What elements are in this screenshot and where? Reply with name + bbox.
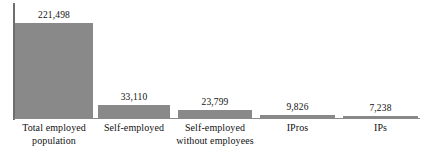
bar-ips[interactable] — [343, 116, 418, 119]
category-label-self-employed: Self-employed — [96, 121, 172, 134]
category-label-line: population — [12, 134, 96, 147]
category-label-line: without employees — [172, 134, 258, 147]
bar-chart: 221,49833,11023,7999,8267,238 Total empl… — [0, 0, 430, 158]
value-label-self-employed-without-employees: 23,799 — [178, 97, 252, 108]
value-label-ipros: 9,826 — [260, 102, 335, 113]
bar-group-self-employed-without-employees: 23,799 — [178, 0, 252, 119]
value-label-ips: 7,238 — [343, 103, 418, 114]
category-label-line: IPs — [343, 121, 418, 134]
category-label-self-employed-without-employees: Self-employedwithout employees — [172, 121, 258, 147]
category-label-line: Self-employed — [96, 121, 172, 134]
bar-group-self-employed: 33,110 — [98, 0, 170, 119]
plot-area: 221,49833,11023,7999,8267,238 — [0, 0, 430, 119]
category-label-ips: IPs — [343, 121, 418, 134]
bar-group-ips: 7,238 — [343, 0, 418, 119]
bar-total-employed-population[interactable] — [15, 23, 93, 119]
bar-group-total-employed-population: 221,498 — [15, 0, 93, 119]
bar-group-ipros: 9,826 — [260, 0, 335, 119]
category-label-ipros: IPros — [260, 121, 335, 134]
value-label-total-employed-population: 221,498 — [15, 10, 93, 21]
category-label-line: IPros — [260, 121, 335, 134]
category-axis-labels: Total employedpopulationSelf-employedSel… — [0, 121, 430, 158]
value-label-self-employed: 33,110 — [98, 92, 170, 103]
category-label-line: Total employed — [12, 121, 96, 134]
bar-ipros[interactable] — [260, 115, 335, 119]
bar-self-employed-without-employees[interactable] — [178, 110, 252, 119]
category-label-total-employed-population: Total employedpopulation — [12, 121, 96, 147]
category-label-line: Self-employed — [172, 121, 258, 134]
bar-self-employed[interactable] — [98, 105, 170, 119]
